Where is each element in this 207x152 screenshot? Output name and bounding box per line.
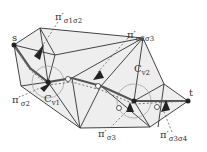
label-c-v2: Cv2 (134, 64, 150, 77)
label-sub: σ3 (107, 134, 116, 142)
label-pi-sigma3-sigma4: π′σ3σ4 (160, 130, 187, 143)
label-pi-sigma2: π′σ2 (12, 95, 30, 108)
label-pi-sigma2-sigma3: π′σ2σ3 (127, 30, 154, 43)
label-sub: σ2σ3 (136, 35, 154, 43)
label-main: C (44, 93, 52, 104)
label-main: π′ (160, 129, 169, 140)
label-pi-sigma3: π′σ3 (98, 129, 116, 142)
label-s: s (12, 33, 17, 43)
label-sub: σ2 (21, 100, 30, 108)
label-sub: v2 (142, 69, 150, 77)
label-main: π′ (55, 11, 64, 22)
label-main: C (134, 63, 142, 74)
label-c-v1: Cv1 (44, 94, 60, 107)
label-sub: σ3σ4 (169, 135, 187, 143)
label-main: π′ (98, 128, 107, 139)
label-pi-sigma1-sigma2: π′σ1σ2 (55, 12, 82, 25)
label-sub: σ1σ2 (64, 17, 82, 25)
label-main: π′ (12, 94, 21, 105)
label-sub: v1 (52, 99, 60, 107)
label-t: t (189, 88, 193, 98)
label-main: π′ (127, 29, 136, 40)
